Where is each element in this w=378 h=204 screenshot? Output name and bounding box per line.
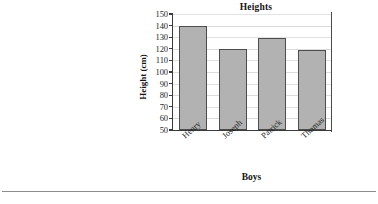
- bar-patrick: [258, 38, 286, 130]
- y-axis-tick: [169, 37, 173, 38]
- y-axis-tick-label: 130: [156, 33, 168, 42]
- y-axis-tick-label: 60: [160, 114, 168, 123]
- y-axis-tick: [169, 48, 173, 49]
- y-axis-tick-label: 50: [160, 126, 168, 135]
- chart-title: Heights: [176, 2, 336, 12]
- y-axis-tick: [169, 83, 173, 84]
- y-axis-tick-label: 100: [156, 68, 168, 77]
- y-axis-tick-label: 120: [156, 45, 168, 54]
- bar-chart-figure: Heights Height (cm) 15014013012011010090…: [0, 0, 378, 204]
- y-axis-tick-label: 70: [160, 103, 168, 112]
- y-axis-title: Height (cm): [138, 54, 148, 100]
- plot-right-border: [331, 12, 332, 132]
- gridline: [173, 14, 332, 15]
- horizontal-rule: [2, 191, 376, 192]
- plot-area: 1501401301201101009080706050: [172, 14, 332, 131]
- y-axis-tick-label: 140: [156, 21, 168, 30]
- y-axis-tick: [169, 118, 173, 119]
- bar-joseph: [219, 49, 247, 130]
- y-axis-tick-label: 150: [156, 10, 168, 19]
- y-axis-tick-label: 110: [156, 56, 168, 65]
- y-axis-tick: [169, 95, 173, 96]
- y-axis-tick: [169, 129, 173, 130]
- bar-henry: [179, 26, 207, 130]
- y-axis-tick: [169, 13, 173, 14]
- y-axis-tick: [169, 25, 173, 26]
- y-axis-tick: [169, 106, 173, 107]
- y-axis-tick: [169, 71, 173, 72]
- y-axis-tick: [169, 60, 173, 61]
- y-axis-tick-label: 90: [160, 79, 168, 88]
- y-axis-tick-label: 80: [160, 91, 168, 100]
- x-axis-title: Boys: [172, 172, 331, 182]
